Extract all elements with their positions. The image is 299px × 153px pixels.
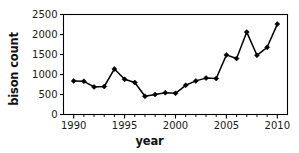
y-axis-title: bison count <box>7 29 21 109</box>
data-point-marker <box>234 56 239 61</box>
x-tick-label: 2010 <box>265 120 290 131</box>
plot-area: 0500100015002000250019901995200020052010 <box>0 0 299 153</box>
y-tick-label: 1000 <box>32 69 57 80</box>
x-tick-label: 2005 <box>214 120 239 131</box>
y-tick-label: 0 <box>51 109 57 120</box>
y-tick-label: 1500 <box>32 49 57 60</box>
y-tick-label: 2000 <box>32 29 57 40</box>
x-tick-label: 1990 <box>61 120 86 131</box>
y-tick-label: 500 <box>38 89 57 100</box>
data-point-marker <box>275 22 280 27</box>
data-point-marker <box>204 76 209 81</box>
data-point-marker <box>163 90 168 95</box>
data-point-marker <box>71 78 76 83</box>
data-point-marker <box>244 30 249 35</box>
data-point-marker <box>153 92 158 97</box>
data-point-marker <box>193 78 198 83</box>
x-tick-label: 1995 <box>112 120 137 131</box>
bison-count-line-chart: 0500100015002000250019901995200020052010… <box>0 0 299 153</box>
plot-frame <box>64 15 288 115</box>
x-tick-label: 2000 <box>163 120 188 131</box>
y-tick-label: 2500 <box>32 9 57 20</box>
x-axis-title: year <box>0 134 299 148</box>
data-point-marker <box>224 52 229 57</box>
data-point-marker <box>214 76 219 81</box>
